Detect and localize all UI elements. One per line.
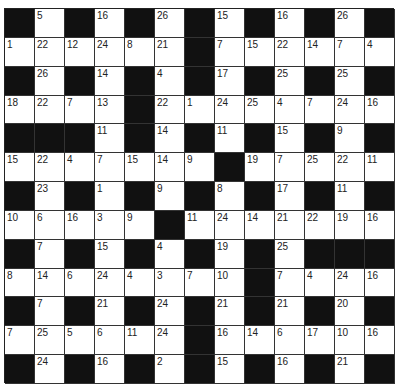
letter-cell[interactable]: 6 xyxy=(95,326,125,355)
letter-cell[interactable]: 7 xyxy=(5,326,35,355)
letter-cell[interactable]: 15 xyxy=(245,38,275,67)
letter-cell[interactable]: 14 xyxy=(95,67,125,96)
letter-cell[interactable]: 22 xyxy=(35,96,65,125)
letter-cell[interactable]: 24 xyxy=(95,38,125,67)
letter-cell[interactable]: 22 xyxy=(155,96,185,125)
letter-cell[interactable]: 7 xyxy=(65,96,95,125)
letter-cell[interactable]: 5 xyxy=(35,9,65,38)
letter-cell[interactable]: 22 xyxy=(35,153,65,182)
letter-cell[interactable]: 6 xyxy=(65,269,95,298)
letter-cell[interactable]: 14 xyxy=(245,326,275,355)
letter-cell[interactable]: 8 xyxy=(215,182,245,211)
letter-cell[interactable]: 10 xyxy=(5,211,35,240)
letter-cell[interactable]: 15 xyxy=(215,355,245,384)
letter-cell[interactable]: 7 xyxy=(35,240,65,269)
letter-cell[interactable]: 16 xyxy=(365,96,395,125)
letter-cell[interactable]: 17 xyxy=(275,182,305,211)
letter-cell[interactable]: 19 xyxy=(245,153,275,182)
letter-cell[interactable]: 25 xyxy=(245,96,275,125)
letter-cell[interactable]: 4 xyxy=(365,38,395,67)
letter-cell[interactable]: 16 xyxy=(65,211,95,240)
letter-cell[interactable]: 26 xyxy=(335,9,365,38)
letter-cell[interactable]: 11 xyxy=(185,211,215,240)
letter-cell[interactable]: 16 xyxy=(365,211,395,240)
letter-cell[interactable]: 21 xyxy=(155,38,185,67)
letter-cell[interactable]: 14 xyxy=(155,153,185,182)
letter-cell[interactable]: 21 xyxy=(215,297,245,326)
letter-cell[interactable]: 15 xyxy=(215,9,245,38)
letter-cell[interactable]: 11 xyxy=(95,124,125,153)
letter-cell[interactable]: 2 xyxy=(155,355,185,384)
letter-cell[interactable]: 21 xyxy=(275,211,305,240)
letter-cell[interactable]: 15 xyxy=(5,153,35,182)
letter-cell[interactable]: 24 xyxy=(215,96,245,125)
letter-cell[interactable]: 14 xyxy=(245,211,275,240)
letter-cell[interactable]: 7 xyxy=(35,297,65,326)
letter-cell[interactable]: 12 xyxy=(65,38,95,67)
letter-cell[interactable]: 16 xyxy=(365,269,395,298)
letter-cell[interactable]: 17 xyxy=(305,326,335,355)
letter-cell[interactable]: 4 xyxy=(125,269,155,298)
letter-cell[interactable]: 1 xyxy=(95,182,125,211)
letter-cell[interactable]: 25 xyxy=(305,153,335,182)
letter-cell[interactable]: 7 xyxy=(275,269,305,298)
letter-cell[interactable]: 25 xyxy=(275,67,305,96)
letter-cell[interactable]: 17 xyxy=(215,67,245,96)
letter-cell[interactable]: 15 xyxy=(275,124,305,153)
letter-cell[interactable]: 23 xyxy=(35,182,65,211)
letter-cell[interactable]: 10 xyxy=(215,269,245,298)
letter-cell[interactable]: 11 xyxy=(335,182,365,211)
letter-cell[interactable]: 24 xyxy=(215,211,245,240)
letter-cell[interactable]: 26 xyxy=(155,9,185,38)
letter-cell[interactable]: 7 xyxy=(275,153,305,182)
letter-cell[interactable]: 8 xyxy=(5,269,35,298)
letter-cell[interactable]: 24 xyxy=(35,355,65,384)
letter-cell[interactable]: 14 xyxy=(35,269,65,298)
letter-cell[interactable]: 7 xyxy=(215,38,245,67)
letter-cell[interactable]: 20 xyxy=(335,297,365,326)
letter-cell[interactable]: 6 xyxy=(35,211,65,240)
letter-cell[interactable]: 14 xyxy=(155,124,185,153)
letter-cell[interactable]: 25 xyxy=(35,326,65,355)
letter-cell[interactable]: 8 xyxy=(125,38,155,67)
letter-cell[interactable]: 22 xyxy=(305,211,335,240)
letter-cell[interactable]: 4 xyxy=(275,96,305,125)
letter-cell[interactable]: 3 xyxy=(155,269,185,298)
letter-cell[interactable]: 16 xyxy=(215,326,245,355)
letter-cell[interactable]: 11 xyxy=(215,124,245,153)
letter-cell[interactable]: 21 xyxy=(95,297,125,326)
letter-cell[interactable]: 1 xyxy=(185,96,215,125)
letter-cell[interactable]: 24 xyxy=(95,269,125,298)
letter-cell[interactable]: 16 xyxy=(95,355,125,384)
letter-cell[interactable]: 7 xyxy=(305,96,335,125)
letter-cell[interactable]: 4 xyxy=(155,240,185,269)
letter-cell[interactable]: 5 xyxy=(65,326,95,355)
letter-cell[interactable]: 19 xyxy=(335,211,365,240)
letter-cell[interactable]: 9 xyxy=(155,182,185,211)
letter-cell[interactable]: 24 xyxy=(155,297,185,326)
letter-cell[interactable]: 14 xyxy=(305,38,335,67)
letter-cell[interactable]: 10 xyxy=(335,326,365,355)
letter-cell[interactable]: 25 xyxy=(275,240,305,269)
letter-cell[interactable]: 7 xyxy=(335,38,365,67)
letter-cell[interactable]: 7 xyxy=(95,153,125,182)
letter-cell[interactable]: 6 xyxy=(275,326,305,355)
letter-cell[interactable]: 9 xyxy=(125,211,155,240)
letter-cell[interactable]: 9 xyxy=(335,124,365,153)
letter-cell[interactable]: 4 xyxy=(155,67,185,96)
letter-cell[interactable]: 24 xyxy=(335,96,365,125)
letter-cell[interactable]: 22 xyxy=(335,153,365,182)
letter-cell[interactable]: 19 xyxy=(215,240,245,269)
letter-cell[interactable]: 26 xyxy=(35,67,65,96)
letter-cell[interactable]: 16 xyxy=(275,9,305,38)
letter-cell[interactable]: 16 xyxy=(275,355,305,384)
letter-cell[interactable]: 1 xyxy=(5,38,35,67)
letter-cell[interactable]: 16 xyxy=(95,9,125,38)
letter-cell[interactable]: 24 xyxy=(155,326,185,355)
letter-cell[interactable]: 4 xyxy=(305,269,335,298)
letter-cell[interactable]: 13 xyxy=(95,96,125,125)
letter-cell[interactable]: 21 xyxy=(275,297,305,326)
letter-cell[interactable]: 16 xyxy=(365,326,395,355)
letter-cell[interactable]: 3 xyxy=(95,211,125,240)
letter-cell[interactable]: 9 xyxy=(185,153,215,182)
